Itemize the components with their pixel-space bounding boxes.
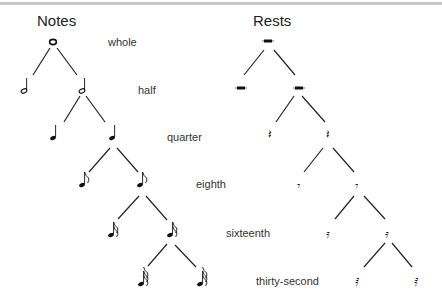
half-rest-icon [293,87,305,90]
eighth-note-icon [78,172,88,188]
eighth-note-icon [136,172,146,188]
note-rest-tree-diagram: 𝄽 𝄽 𝄾 𝄾 𝄿 𝄿 𝅀 𝅀 [0,0,442,305]
sixteenth-rest-icon: 𝄿 [326,227,330,241]
quarter-rest-icon: 𝄽 [326,128,330,142]
quarter-note-icon [49,125,56,141]
thirty-second-rest-icon: 𝅀 [355,275,360,289]
eighth-rest-icon: 𝄾 [355,179,358,193]
thirty-second-rest-icon: 𝅀 [414,275,419,289]
whole-note-icon [50,39,57,44]
thirty-second-note-icon [137,267,147,287]
half-rest-icon [235,87,247,90]
quarter-rest-icon: 𝄽 [268,128,272,142]
thirty-second-note-icon [196,267,206,287]
sixteenth-note-icon [166,222,176,238]
sixteenth-note-icon [107,222,117,238]
eighth-rest-icon: 𝄾 [297,179,300,193]
whole-rest-icon [262,40,274,43]
sixteenth-rest-icon: 𝄿 [385,227,389,241]
quarter-note-icon [108,125,115,141]
half-note-icon [20,78,27,94]
half-note-icon [78,78,85,94]
